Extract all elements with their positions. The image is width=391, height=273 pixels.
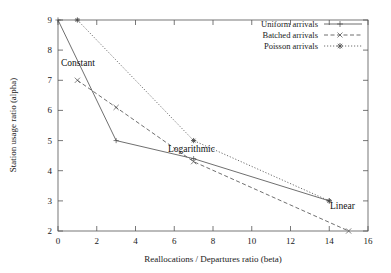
legend-label-poisson-arrivals: Poisson arrivals — [264, 41, 318, 51]
series-line-batched-arrivals — [77, 80, 348, 231]
y-axis-ticks — [58, 20, 368, 231]
x-tick-label-6: 6 — [172, 236, 177, 246]
y-tick-label-5: 5 — [48, 136, 53, 146]
x-tick-label-2: 2 — [95, 236, 100, 246]
y-tick-label-2: 2 — [48, 226, 53, 236]
line-chart: 2 3 4 5 6 7 8 9 0 — [0, 0, 391, 273]
annotation-logarithmic: Logarithmic — [168, 144, 215, 154]
x-axis-title: Reallocations / Departures ratio (beta) — [144, 254, 281, 264]
legend-label-uniform-arrivals: Uniform arrivals — [261, 19, 318, 29]
x-tick-label-10: 10 — [247, 236, 257, 246]
chart-page: 2 3 4 5 6 7 8 9 0 — [0, 0, 391, 273]
y-axis-title: Station usage ratio (alpha) — [8, 78, 18, 173]
y-tick-label-6: 6 — [48, 105, 53, 115]
x-axis-ticks — [58, 20, 368, 231]
x-tick-label-12: 12 — [286, 236, 295, 246]
y-tick-label-4: 4 — [48, 166, 53, 176]
x-tick-label-8: 8 — [211, 236, 216, 246]
annotation-constant: Constant — [61, 58, 95, 68]
legend-label-batched-arrivals: Batched arrivals — [263, 30, 318, 40]
x-tick-label-0: 0 — [56, 236, 61, 246]
legend-marker-star-icon — [337, 43, 343, 49]
legend: Uniform arrivals Batched arrivals Poisso… — [261, 19, 362, 51]
plot-frame — [58, 20, 368, 231]
x-tick-label-4: 4 — [133, 236, 138, 246]
annotation-linear: Linear — [330, 201, 356, 211]
legend-marker-plus-icon — [337, 21, 343, 27]
x-tick-label-16: 16 — [364, 236, 374, 246]
y-tick-label-8: 8 — [48, 45, 53, 55]
y-tick-label-7: 7 — [48, 75, 53, 85]
x-tick-label-14: 14 — [325, 236, 335, 246]
y-tick-label-9: 9 — [48, 15, 53, 25]
y-tick-label-3: 3 — [48, 196, 53, 206]
series-markers-batched-arrivals — [75, 78, 351, 234]
